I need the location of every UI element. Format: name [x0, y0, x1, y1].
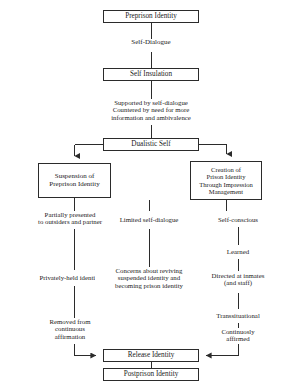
- edge-label-limited-self-dialogue: Limited self-dialogue: [105, 216, 193, 223]
- node-label: Self Insulation: [104, 71, 198, 79]
- node-label: Postprison Identity: [104, 371, 198, 379]
- edge-label-transsituational: Transsituational: [203, 312, 273, 319]
- node-postprison-identity: Postprison Identity: [103, 368, 199, 381]
- node-label: Dualistic Self: [104, 141, 198, 149]
- edge-label-self-dialogue: Self-Dialogue: [119, 39, 183, 47]
- node-creation-of-prison-identity: Creation of Prison Identity Through Impr…: [190, 161, 262, 200]
- flowchart-diagram: Preprison Identity Self Insulation Duali…: [0, 0, 292, 385]
- edge-label-supported-countered: Supported by self-dialogue Countered by …: [89, 99, 213, 121]
- edge-label-removed-from-continuous-affirmation: Removed from continuous affirmation: [34, 318, 106, 340]
- edge-label-concerns-about-reviving: Concerns about reviving suspended identi…: [95, 267, 203, 289]
- node-dualistic-self: Dualistic Self: [103, 138, 199, 151]
- node-self-insulation: Self Insulation: [103, 68, 199, 81]
- node-label: Release Identity: [104, 352, 198, 360]
- node-preprison-identity: Preprison Identity: [103, 10, 199, 23]
- node-label: Creation of Prison Identity Through Impr…: [191, 166, 261, 194]
- node-label: Preprison Identity: [104, 13, 198, 21]
- edge-label-directed-at-inmates: Directed at inmates (and staff): [196, 272, 280, 287]
- edge-label-continuosly-affirmed: Continuosly affirmed: [207, 328, 269, 343]
- edge-label-self-conscious: Self-conscious: [205, 216, 271, 223]
- node-release-identity: Release Identity: [103, 349, 199, 362]
- edge-label-learned: Learned: [212, 248, 264, 255]
- node-label: Suspension of Preprison Identity: [39, 173, 110, 188]
- node-suspension-of-preprison-identity: Suspension of Preprison Identity: [38, 163, 111, 198]
